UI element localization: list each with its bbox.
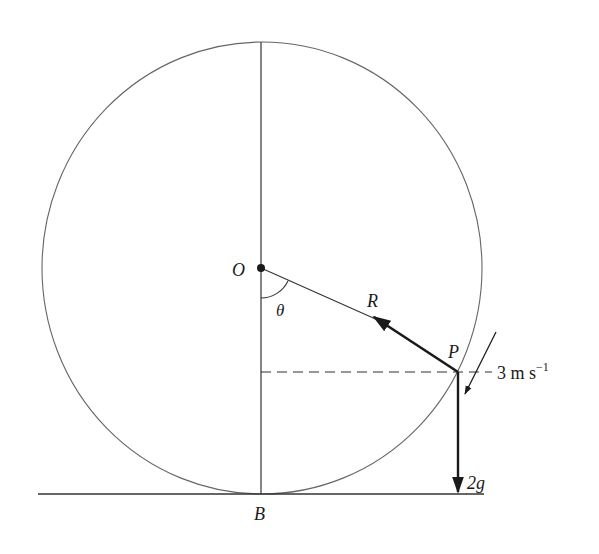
reaction-force-arrow [374, 317, 458, 372]
center-point-o [257, 264, 265, 272]
label-p: P [447, 342, 459, 362]
label-r: R [366, 291, 378, 311]
label-speed: 3 m s−1 [497, 360, 549, 383]
label-b: B [254, 504, 265, 524]
label-o: O [232, 260, 245, 280]
label-theta: θ [276, 301, 284, 320]
circular-motion-diagram: O θ R P 3 m s−1 2g B [0, 0, 599, 554]
label-weight: 2g [467, 473, 485, 493]
angle-arc-theta [261, 281, 288, 298]
